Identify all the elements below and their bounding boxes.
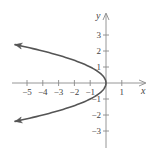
x-tick-label: −2: [70, 87, 80, 97]
x-axis-label: x: [140, 85, 146, 96]
x-tick-label: 1: [120, 87, 125, 97]
x-tick-label: −3: [54, 87, 64, 97]
y-tick-label: −2: [91, 110, 101, 120]
x-tick-label: −5: [22, 87, 32, 97]
y-tick-label: 2: [97, 46, 102, 56]
y-tick-label: −3: [91, 126, 101, 136]
y-axis-label: y: [95, 10, 101, 21]
axes: [12, 13, 146, 148]
tick-labels: xy−5−4−3−2−11321−1−2−3: [22, 10, 146, 136]
chart-canvas: xy−5−4−3−2−11321−1−2−3: [0, 0, 154, 153]
y-tick-label: 3: [97, 30, 102, 40]
parabola-chart: xy−5−4−3−2−11321−1−2−3: [0, 0, 154, 153]
x-tick-label: −4: [38, 87, 48, 97]
